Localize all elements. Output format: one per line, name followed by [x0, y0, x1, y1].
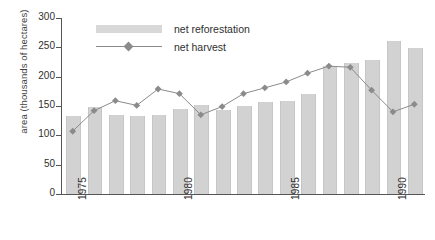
legend-item-net-reforestation: net reforestation: [96, 22, 326, 36]
x-tick-label: 1990: [397, 177, 408, 200]
x-tick-label: 1980: [183, 177, 194, 200]
data-point-marker: [411, 101, 418, 108]
y-tick-label: 300: [21, 12, 55, 22]
data-point-marker: [326, 63, 333, 70]
y-tick-label: 150: [21, 100, 55, 110]
x-tick-label: 1985: [290, 177, 301, 200]
y-tick-label: 50: [21, 159, 55, 169]
data-point-marker: [261, 84, 268, 91]
data-point-marker: [219, 103, 226, 110]
y-tick-label: 100: [21, 129, 55, 139]
data-point-marker: [240, 90, 247, 97]
x-axis-line: [61, 194, 425, 195]
y-axis-ticks: 050100150200250300: [0, 0, 55, 240]
diamond-marker-icon: [124, 41, 134, 51]
chart-legend: net reforestation net harvest: [96, 18, 326, 58]
data-point-marker: [283, 79, 290, 86]
x-tick-label: 1975: [77, 177, 88, 200]
chart-container: area (thousands of hectares) 05010015020…: [0, 0, 435, 240]
y-tick-label: 0: [21, 188, 55, 198]
legend-label-net-harvest: net harvest: [174, 40, 226, 54]
legend-item-net-harvest: net harvest: [96, 40, 326, 54]
line-path: [73, 66, 415, 131]
bar-swatch-icon: [96, 25, 162, 33]
y-tick-label: 250: [21, 41, 55, 51]
legend-label-net-reforestation: net reforestation: [174, 22, 250, 36]
data-point-marker: [112, 97, 119, 104]
y-tick-label: 200: [21, 71, 55, 81]
data-point-marker: [304, 70, 311, 77]
